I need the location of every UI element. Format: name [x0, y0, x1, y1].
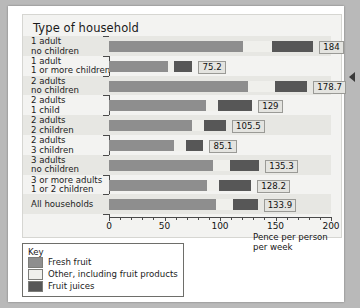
value-tick-label: 0	[106, 221, 112, 231]
value-tick-minor	[209, 217, 210, 220]
category-tick	[103, 194, 109, 195]
table-row	[109, 81, 307, 92]
bar-segment-other	[216, 199, 234, 210]
category-label: 1 child	[31, 106, 60, 116]
value-tick-label: 50	[159, 221, 170, 231]
category-label: no children	[31, 47, 79, 57]
category-tick	[103, 214, 109, 215]
table-row	[109, 199, 258, 210]
category-label: no children	[31, 86, 79, 96]
bar-segment-juice	[230, 160, 259, 171]
value-axis-title: Pence per person per week	[253, 233, 328, 252]
value-tick-label: 150	[267, 221, 284, 231]
legend-item: Fruit juices	[28, 281, 95, 291]
value-label: 128.2	[257, 180, 290, 193]
category-label: 3 children	[31, 146, 74, 156]
legend-label: Fruit juices	[48, 281, 95, 291]
category-tick	[103, 36, 109, 37]
legend-swatch-juice	[28, 281, 43, 292]
table-row	[109, 120, 226, 131]
chart-panel: Type of household 1 adultno children1 ad…	[22, 14, 342, 238]
bar-segment-fresh	[109, 81, 248, 92]
bar-segment-other	[243, 41, 272, 52]
bar-segment-fresh	[109, 61, 168, 72]
value-tick-minor	[176, 217, 177, 220]
value-tick-minor	[242, 217, 243, 220]
bar-segment-juice	[219, 180, 251, 191]
value-tick-minor	[153, 217, 154, 220]
category-label: 2 children	[31, 126, 74, 136]
category-label: 1 or 2 children	[31, 185, 93, 195]
bar-segment-other	[174, 140, 186, 151]
value-tick-minor	[298, 217, 299, 220]
bar-segment-juice	[218, 100, 252, 111]
category-tick	[103, 135, 109, 136]
page-edge-arrow-icon	[349, 72, 355, 82]
value-label: 184	[319, 41, 343, 54]
value-label: 178.7	[313, 81, 346, 94]
value-tick-minor	[198, 217, 199, 220]
bar-segment-fresh	[109, 41, 243, 52]
category-label: 1 or more children	[31, 66, 110, 76]
legend-key-box: Key Fresh fruitOther, including fruit pr…	[22, 243, 184, 297]
value-tick-minor	[120, 217, 121, 220]
bar-segment-juice	[275, 81, 307, 92]
value-tick-minor	[309, 217, 310, 220]
bar-segment-fresh	[109, 120, 192, 131]
category-tick	[103, 95, 109, 96]
value-axis-title-line2: per week	[253, 243, 328, 253]
legend-item: Other, including fruit products	[28, 269, 178, 279]
table-row	[109, 180, 251, 191]
value-label: 129	[258, 100, 282, 113]
value-tick-label: 100	[211, 221, 228, 231]
bar-segment-fresh	[109, 100, 206, 111]
value-tick-minor	[142, 217, 143, 220]
value-tick-minor	[231, 217, 232, 220]
table-row	[109, 160, 259, 171]
bar-segment-other	[248, 81, 275, 92]
value-label: 133.9	[264, 199, 297, 212]
value-tick-minor	[187, 217, 188, 220]
bar-segment-other	[213, 160, 230, 171]
value-label: 105.5	[232, 120, 265, 133]
legend-swatch-other	[28, 269, 43, 280]
value-label: 85.1	[209, 140, 236, 153]
legend-label: Fresh fruit	[48, 257, 91, 267]
category-tick	[103, 56, 109, 57]
bar-segment-fresh	[109, 160, 213, 171]
value-label: 75.2	[198, 61, 225, 74]
category-tick	[103, 115, 109, 116]
legend-title: Key	[28, 247, 44, 257]
bar-segment-juice	[186, 140, 203, 151]
value-tick-minor	[264, 217, 265, 220]
table-row	[109, 100, 252, 111]
bar-segment-fresh	[109, 199, 216, 210]
bar-segment-juice	[204, 120, 226, 131]
legend-swatch-fresh	[28, 257, 43, 268]
value-tick-minor	[253, 217, 254, 220]
table-row	[109, 41, 313, 52]
category-tick	[103, 76, 109, 77]
value-label: 135.3	[265, 160, 298, 173]
category-tick	[103, 155, 109, 156]
legend-item: Fresh fruit	[28, 257, 91, 267]
category-label: no children	[31, 165, 79, 175]
chart-title: Type of household	[33, 21, 139, 35]
bar-segment-juice	[233, 199, 257, 210]
bar-segment-other	[206, 100, 218, 111]
bar-segment-juice	[174, 61, 192, 72]
bar-segment-other	[207, 180, 219, 191]
page-sheet: Type of household 1 adultno children1 ad…	[8, 6, 344, 302]
table-row	[109, 61, 192, 72]
bar-segment-juice	[272, 41, 313, 52]
category-label: All households	[31, 200, 93, 210]
legend-label: Other, including fruit products	[48, 269, 178, 279]
value-tick-minor	[320, 217, 321, 220]
bar-segment-fresh	[109, 140, 174, 151]
table-row	[109, 140, 203, 151]
value-tick-minor	[131, 217, 132, 220]
value-tick-minor	[287, 217, 288, 220]
bar-segment-fresh	[109, 180, 207, 191]
value-tick-label: 200	[322, 221, 339, 231]
category-tick	[103, 175, 109, 176]
